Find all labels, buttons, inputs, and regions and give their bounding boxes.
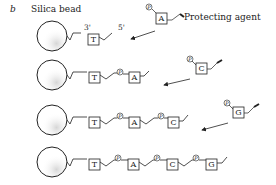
svg-text:P: P (193, 155, 198, 161)
arrow-icon (164, 79, 190, 85)
svg-text:G: G (235, 108, 241, 117)
protecting-agent-label: Protecting agent (184, 12, 261, 22)
silica-bead-icon (37, 147, 67, 177)
svg-text:A: A (131, 73, 138, 82)
silica-bead-title: Silica bead (31, 4, 82, 14)
svg-text:P: P (154, 155, 159, 161)
silica-bead-icon (37, 60, 67, 90)
svg-text:G: G (208, 160, 214, 169)
svg-text:P: P (224, 100, 229, 106)
svg-text:P: P (146, 4, 151, 10)
row-3: T P A P C P G (37, 100, 259, 135)
three-prime-label: 3' (84, 23, 91, 32)
arrow-icon (202, 123, 228, 130)
panel-label: b (10, 4, 16, 14)
silica-bead-icon (37, 105, 67, 135)
svg-text:P: P (158, 113, 163, 119)
svg-text:T: T (92, 73, 98, 82)
nucleotide-label: T (91, 35, 97, 44)
svg-text:T: T (92, 118, 98, 127)
incoming-nucleotide-label: A (158, 14, 165, 23)
protecting-group-icon (254, 104, 259, 107)
row-2: T P A P C (37, 56, 222, 90)
svg-text:P: P (117, 113, 122, 119)
svg-text:A: A (130, 160, 137, 169)
svg-text:P: P (117, 69, 122, 75)
svg-text:C: C (170, 118, 176, 127)
synthesis-diagram: b Silica bead 3' T 5' P A Protecting age… (0, 0, 276, 185)
svg-text:C: C (198, 64, 204, 73)
five-prime-label: 5' (118, 23, 125, 32)
silica-bead-icon (37, 21, 67, 51)
svg-text:A: A (131, 118, 138, 127)
svg-text:P: P (115, 155, 120, 161)
protecting-group-icon (217, 60, 222, 63)
svg-text:C: C (169, 160, 175, 169)
svg-text:P: P (187, 56, 192, 62)
arrow-icon (131, 31, 155, 39)
svg-text:T: T (92, 160, 98, 169)
row-4: T P A P C P G (37, 147, 227, 177)
